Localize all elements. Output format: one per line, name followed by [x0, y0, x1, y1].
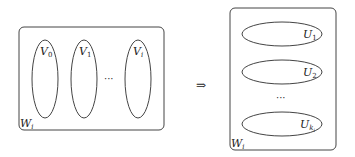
left-box-label-sub: i — [31, 123, 33, 131]
svg-text:U1: U1 — [303, 28, 317, 42]
set-u2-sub: 2 — [312, 72, 316, 80]
svg-text:Wi: Wi — [20, 117, 34, 131]
left-ellipsis: ··· — [104, 73, 114, 84]
implies-arrow: ⇒ — [196, 78, 206, 92]
set-uki-subsub: i — [314, 127, 316, 133]
left-box-group: V0 V1 ··· Vi Wi — [19, 27, 164, 131]
right-ellipsis: ··· — [276, 92, 286, 103]
right-box-label-sub: i — [242, 143, 244, 151]
svg-text:U2: U2 — [303, 66, 317, 80]
diagram-canvas: V0 V1 ··· Vi Wi ⇒ U1 U2 ··· Uki — [0, 0, 355, 157]
set-v0-sub: 0 — [48, 51, 52, 59]
svg-text:V0: V0 — [40, 45, 52, 59]
right-box-group: U1 U2 ··· Uki Wi — [230, 8, 336, 151]
set-v1-sub: 1 — [87, 51, 91, 59]
svg-text:Vi: Vi — [133, 45, 143, 59]
svg-text:V1: V1 — [79, 45, 91, 59]
svg-text:Wi: Wi — [231, 137, 245, 151]
svg-text:Uki: Uki — [300, 118, 316, 133]
set-u1-sub: 1 — [312, 34, 316, 42]
set-vi-sub: i — [141, 51, 143, 59]
